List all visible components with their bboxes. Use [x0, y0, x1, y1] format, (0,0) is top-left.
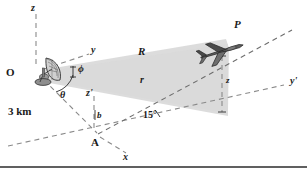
label-altitude-z: z: [225, 75, 230, 85]
label-angle-phi: ϕ: [78, 63, 84, 74]
label-range-R: R: [137, 45, 145, 57]
label-z-axis: z: [30, 2, 35, 13]
label-b: b: [97, 110, 102, 120]
label-x-axis: x: [122, 151, 128, 162]
label-angle-fifteen: 15°: [143, 109, 157, 120]
radar-beam-cone: [42, 39, 229, 116]
label-baseline-distance: 3 km: [8, 105, 32, 117]
figure-canvas: z y O ϕ θ 3 km z' b A x R r 15° P z y': [0, 0, 307, 171]
radar-geometry-figure: z y O ϕ θ 3 km z' b A x R r 15° P z y': [0, 0, 307, 171]
label-range-r: r: [140, 74, 144, 85]
label-y-prime-axis: y': [289, 75, 297, 86]
label-point-A: A: [91, 136, 99, 148]
label-angle-theta: θ: [60, 89, 66, 100]
label-point-P: P: [234, 18, 241, 30]
label-origin-O: O: [6, 66, 15, 78]
label-y-axis: y: [90, 44, 96, 55]
label-z-prime-axis: z': [85, 87, 93, 98]
